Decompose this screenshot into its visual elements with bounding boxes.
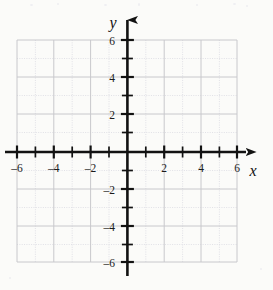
y-tick-label: 6: [109, 35, 115, 47]
x-tick-label: 4: [198, 162, 204, 174]
y-tick-label: –4: [103, 221, 116, 233]
x-tick-label: –4: [47, 162, 60, 174]
y-tick-label: –2: [103, 184, 116, 196]
x-tick-label: 6: [234, 162, 240, 174]
x-axis-tick-labels: –6 –4 –2 2 4 6: [10, 162, 240, 174]
y-tick-label: 4: [109, 72, 115, 84]
x-tick-label: 2: [161, 162, 167, 174]
y-tick-label: –6: [103, 257, 116, 269]
x-tick-label: –6: [10, 162, 23, 174]
coordinate-plane-svg: –6 –4 –2 2 4 6 6 4 2 –2 –4 –6 x y: [0, 0, 273, 290]
y-axis-label: y: [107, 14, 117, 32]
x-axis-label: x: [248, 162, 256, 179]
y-tick-label: 2: [109, 109, 115, 121]
coordinate-plane-figure: –6 –4 –2 2 4 6 6 4 2 –2 –4 –6 x y: [0, 0, 273, 290]
x-tick-label: –2: [84, 162, 97, 174]
